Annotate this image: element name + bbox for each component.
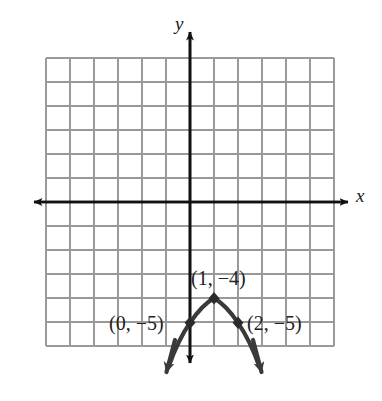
x-axis-label: x <box>356 186 364 205</box>
y-axis-label: y <box>175 14 183 33</box>
vertex-point-label: (1, −4) <box>191 268 246 288</box>
left-point-label: (0, −5) <box>109 313 164 333</box>
right-point-label: (2, −5) <box>247 313 302 333</box>
coordinate-plane-figure: y x (1, −4) (0, −5) (2, −5) <box>0 0 382 401</box>
graph-canvas <box>0 0 382 401</box>
